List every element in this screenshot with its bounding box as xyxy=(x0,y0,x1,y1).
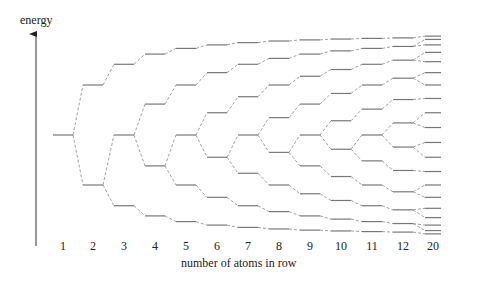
level-connector xyxy=(320,166,331,177)
level-connector xyxy=(196,73,207,85)
level-connector xyxy=(351,48,362,50)
level-connector xyxy=(196,135,207,157)
level-connector xyxy=(382,206,393,210)
level-connector xyxy=(351,109,362,121)
level-connector xyxy=(227,157,238,173)
level-connector xyxy=(351,177,362,185)
level-connector xyxy=(258,135,269,152)
level-connector xyxy=(196,222,207,225)
level-connector xyxy=(103,64,114,85)
level-connector xyxy=(382,232,393,233)
level-connector xyxy=(320,70,331,77)
level-connector xyxy=(289,152,300,166)
level-connector xyxy=(196,45,207,48)
level-connector xyxy=(258,173,269,185)
level-connector xyxy=(227,97,238,113)
level-connector xyxy=(413,232,425,234)
level-connector xyxy=(413,98,425,99)
column-label-2: 2 xyxy=(90,239,96,254)
level-connector xyxy=(289,135,300,152)
level-connector xyxy=(227,197,238,205)
level-connector xyxy=(413,185,425,192)
level-connector xyxy=(351,135,362,149)
column-label-6: 6 xyxy=(214,239,220,254)
column-label-9: 9 xyxy=(307,239,313,254)
level-connector xyxy=(165,48,176,54)
level-connector xyxy=(413,147,425,157)
level-connector xyxy=(413,210,425,218)
level-connector xyxy=(413,78,425,85)
level-connector xyxy=(320,135,331,149)
level-connector xyxy=(196,185,207,197)
level-connector xyxy=(134,206,145,216)
level-connector xyxy=(320,194,331,201)
energy-levels xyxy=(53,36,441,234)
column-label-11: 11 xyxy=(366,239,378,254)
level-connector xyxy=(227,225,238,227)
level-connector xyxy=(227,64,238,72)
level-connector xyxy=(413,36,425,38)
level-connector xyxy=(351,200,362,205)
level-connector xyxy=(413,208,425,210)
level-connector xyxy=(382,46,393,48)
level-connector xyxy=(413,73,425,79)
level-connector xyxy=(165,166,176,185)
level-connector xyxy=(258,58,269,64)
level-connector xyxy=(382,60,393,64)
level-connector xyxy=(413,123,425,128)
column-label-20: 20 xyxy=(427,239,439,254)
level-connector xyxy=(382,135,393,147)
x-axis-label: number of atoms in row xyxy=(181,256,296,271)
level-connector xyxy=(382,100,393,110)
level-connector xyxy=(289,212,300,216)
level-connector xyxy=(227,43,238,45)
level-connector xyxy=(73,135,83,185)
level-connector xyxy=(134,135,145,166)
level-connector xyxy=(382,185,393,192)
level-connector xyxy=(289,229,300,230)
energy-level-diagram xyxy=(0,0,483,283)
column-label-1: 1 xyxy=(60,239,66,254)
level-connector xyxy=(351,219,362,221)
level-connector xyxy=(382,38,393,39)
level-connector xyxy=(134,104,145,135)
level-connector xyxy=(289,76,300,85)
level-connector xyxy=(289,54,300,58)
level-connector xyxy=(382,78,393,85)
level-connector xyxy=(289,185,300,194)
level-connector xyxy=(103,135,114,185)
level-connector xyxy=(258,118,269,135)
level-connector xyxy=(351,64,362,69)
column-label-10: 10 xyxy=(335,239,347,254)
level-connector xyxy=(320,51,331,54)
level-connector xyxy=(289,40,300,41)
y-axis-label: energy xyxy=(20,13,52,28)
column-label-5: 5 xyxy=(183,239,189,254)
level-connector xyxy=(103,185,114,206)
level-connector xyxy=(227,135,238,157)
level-connector xyxy=(165,216,176,222)
level-connector xyxy=(351,149,362,161)
level-connector xyxy=(413,52,425,60)
level-connector xyxy=(382,161,393,171)
column-label-12: 12 xyxy=(397,239,409,254)
level-connector xyxy=(413,192,425,198)
level-connector xyxy=(413,142,425,147)
level-connector xyxy=(258,41,269,43)
column-label-8: 8 xyxy=(276,239,282,254)
column-label-3: 3 xyxy=(121,239,127,254)
level-connector xyxy=(351,231,362,232)
level-connector xyxy=(413,170,425,171)
level-connector xyxy=(320,39,331,40)
level-connector xyxy=(351,38,362,39)
level-connector xyxy=(73,85,83,135)
level-connector xyxy=(258,206,269,212)
level-connector xyxy=(382,222,393,224)
level-connector xyxy=(134,54,145,64)
level-connector xyxy=(382,123,393,135)
level-connector xyxy=(320,121,331,135)
level-connector xyxy=(320,93,331,104)
level-connector xyxy=(320,216,331,219)
level-connector xyxy=(413,113,425,123)
level-connector xyxy=(196,113,207,135)
